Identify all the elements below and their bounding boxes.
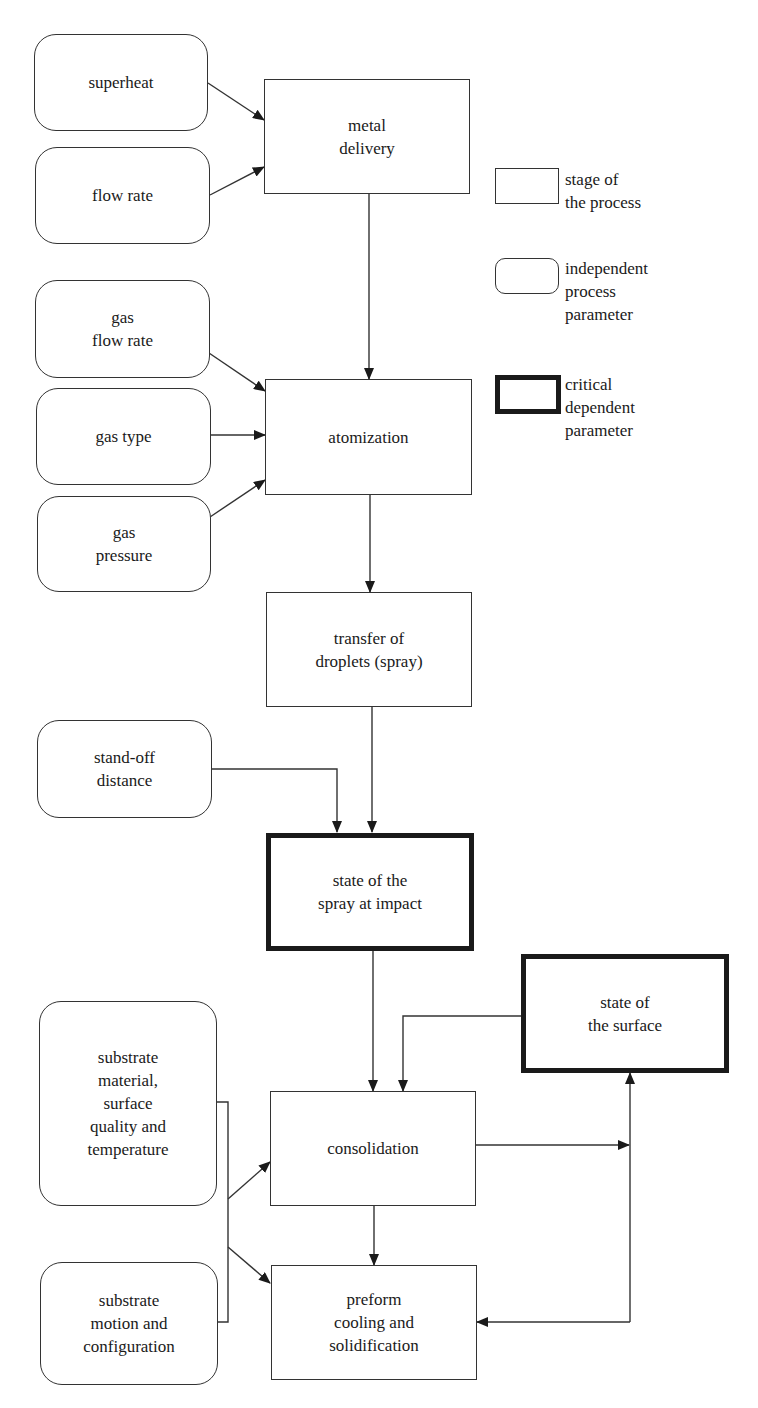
node-label: gas type <box>95 425 151 448</box>
node-label: consolidation <box>327 1137 419 1160</box>
node-label: metal delivery <box>339 114 395 160</box>
node-label: superheat <box>88 71 153 94</box>
arrow-superheat-to-metal-delivery <box>208 83 264 120</box>
node-substrate-material: substrate material, surface quality and … <box>39 1001 217 1206</box>
node-substrate-motion: substrate motion and configuration <box>40 1262 218 1385</box>
node-spray-at-impact: state of the spray at impact <box>266 833 474 951</box>
node-label: preform cooling and solidification <box>329 1288 419 1357</box>
legend-stage-label: stage of the process <box>565 168 641 214</box>
node-metal-delivery: metal delivery <box>264 79 470 194</box>
node-label: state of the surface <box>588 991 662 1037</box>
legend-critical-swatch <box>495 375 561 414</box>
node-gas-pressure: gas pressure <box>37 496 211 592</box>
node-superheat: superheat <box>34 34 208 131</box>
arrow-surface-to-consolidation <box>403 1016 521 1091</box>
node-state-of-surface: state of the surface <box>521 954 729 1073</box>
node-label: transfer of droplets (spray) <box>315 627 422 673</box>
node-preform-cooling: preform cooling and solidification <box>271 1265 477 1380</box>
legend-independent-label: independent process parameter <box>565 257 648 326</box>
node-standoff-distance: stand-off distance <box>37 720 212 818</box>
arrow-gas-flowrate-to-atomization <box>209 353 265 391</box>
node-label: gas pressure <box>96 521 153 567</box>
legend-critical-label: critical dependent parameter <box>565 373 635 442</box>
node-flow-rate: flow rate <box>35 147 210 244</box>
legend-stage-swatch <box>495 168 559 204</box>
node-label: flow rate <box>92 184 153 207</box>
arrow-flowrate-to-metal-delivery <box>210 167 264 195</box>
node-transfer-of-droplets: transfer of droplets (spray) <box>266 592 472 707</box>
node-label: gas flow rate <box>92 306 153 352</box>
substrate-bracket <box>217 1102 228 1322</box>
arrow-substrate-to-consolidation <box>228 1162 270 1199</box>
arrow-gas-pressure-to-atomization <box>210 480 265 517</box>
arrow-substrate-to-preform <box>228 1247 270 1283</box>
node-label: atomization <box>328 426 408 449</box>
node-atomization: atomization <box>265 379 472 495</box>
node-consolidation: consolidation <box>270 1091 476 1206</box>
legend-independent-swatch <box>495 258 559 294</box>
node-label: state of the spray at impact <box>318 869 422 915</box>
arrow-standoff-to-spray <box>211 769 337 832</box>
node-gas-type: gas type <box>36 388 211 485</box>
node-gas-flow-rate: gas flow rate <box>35 280 210 378</box>
node-label: stand-off distance <box>94 746 155 792</box>
node-label: substrate motion and configuration <box>83 1289 175 1358</box>
node-label: substrate material, surface quality and … <box>87 1046 168 1161</box>
